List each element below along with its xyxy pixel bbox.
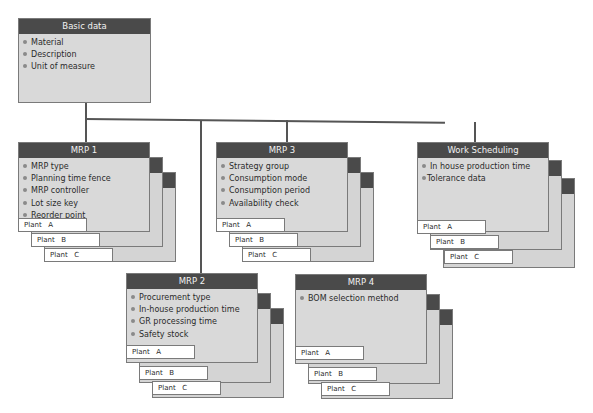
bullet-icon: [422, 176, 426, 180]
mrp2-plant-b-tab: Plant B: [139, 366, 208, 380]
list-item: MRP controller: [23, 185, 149, 197]
bullet-icon: [131, 332, 135, 336]
bullet-icon: [221, 201, 225, 205]
list-item: Planning time fence: [23, 173, 149, 185]
bullet-icon: [131, 307, 135, 311]
mrp3-plant-a-tab: Plant A: [216, 218, 285, 232]
mrp4-plant-b-tab: Plant B: [308, 367, 377, 381]
mrp1-plant-a-tab: Plant A: [18, 218, 87, 232]
bullet-icon: [23, 64, 27, 68]
connector-basic-down: [85, 103, 87, 142]
bullet-icon: [23, 188, 27, 192]
mrp2-plant-c-tab: Plant C: [152, 381, 221, 395]
bullet-icon: [221, 188, 225, 192]
basic-data-title: Basic data: [19, 19, 150, 34]
list-item: Availability check: [221, 198, 347, 210]
connector-mrp3: [286, 120, 288, 142]
mrp2-list: Procurement type In-house production tim…: [127, 289, 257, 341]
bullet-icon: [131, 319, 135, 323]
ws-plant-a-tab: Plant A: [417, 220, 486, 234]
bullet-icon: [23, 201, 27, 205]
connector-mrp2: [200, 121, 202, 273]
mrp1-plant-c-tab: Plant C: [44, 248, 113, 262]
mrp3-title: MRP 3: [217, 143, 347, 158]
list-item: Lot size key: [23, 198, 149, 210]
list-item: In-house production time: [131, 304, 257, 316]
mrp3-plant-c-tab: Plant C: [242, 248, 311, 262]
work-scheduling-box: Work Scheduling In house production time…: [417, 142, 549, 232]
bullet-icon: [23, 213, 27, 217]
mrp4-plant-c-tab: Plant C: [321, 382, 390, 396]
mrp3-plant-b-tab: Plant B: [229, 233, 298, 247]
mrp4-plant-a-tab: Plant A: [295, 346, 364, 360]
mrp4-list: BOM selection method: [296, 290, 426, 305]
bullet-icon: [23, 164, 27, 168]
list-item: GR processing time: [131, 316, 257, 328]
mrp2-title: MRP 2: [127, 274, 257, 289]
mrp1-title: MRP 1: [19, 143, 149, 158]
bullet-icon: [23, 176, 27, 180]
bullet-icon: [422, 164, 426, 168]
connector-horizontal: [85, 118, 445, 123]
list-item: Description: [23, 49, 150, 61]
ws-plant-c-tab: Plant C: [444, 250, 513, 264]
list-item: Material: [23, 37, 150, 49]
mrp1-list: MRP type Planning time fence MRP control…: [19, 158, 149, 222]
bullet-icon: [23, 40, 27, 44]
list-item: BOM selection method: [300, 293, 426, 305]
bullet-icon: [221, 164, 225, 168]
ws-plant-b-tab: Plant B: [430, 235, 499, 249]
work-scheduling-title: Work Scheduling: [418, 143, 548, 158]
work-scheduling-list: In house production time Tolerance data: [418, 158, 548, 185]
list-item: MRP type: [23, 161, 149, 173]
bullet-icon: [221, 176, 225, 180]
mrp2-plant-a-tab: Plant A: [126, 345, 195, 359]
basic-data-box: Basic data Material Description Unit of …: [18, 18, 151, 103]
bullet-icon: [300, 296, 304, 300]
list-item: Procurement type: [131, 292, 257, 304]
bullet-icon: [23, 52, 27, 56]
mrp1-plant-b-tab: Plant B: [31, 233, 100, 247]
list-item: Consumption period: [221, 185, 347, 197]
bullet-icon: [131, 295, 135, 299]
mrp3-list: Strategy group Consumption mode Consumpt…: [217, 158, 347, 210]
connector-work-scheduling: [474, 122, 476, 142]
list-item: Unit of measure: [23, 61, 150, 73]
list-item: Tolerance data: [422, 173, 548, 185]
list-item: Strategy group: [221, 161, 347, 173]
list-item: Consumption mode: [221, 173, 347, 185]
mrp4-title: MRP 4: [296, 275, 426, 290]
basic-data-list: Material Description Unit of measure: [19, 34, 150, 74]
list-item: In house production time: [422, 161, 548, 173]
list-item: Safety stock: [131, 329, 257, 341]
